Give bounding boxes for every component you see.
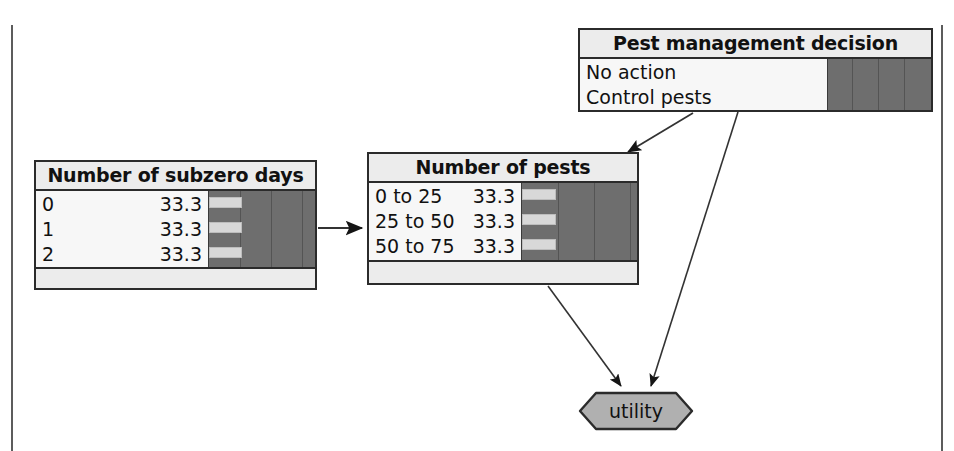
- state-probability: 33.3: [136, 243, 202, 265]
- node-number-of-pests[interactable]: Number of pests 0 to 25 33.3 25 to 50 33…: [367, 152, 639, 285]
- node-title: Number of subzero days: [36, 162, 315, 191]
- state-row[interactable]: 0 to 25 33.3: [369, 183, 637, 208]
- state-row[interactable]: 1 33.3: [36, 216, 315, 241]
- state-probability: 33.3: [449, 235, 515, 257]
- node-body: 0 to 25 33.3 25 to 50 33.3 50 to 75 33.3: [369, 183, 637, 260]
- node-title: Number of pests: [369, 154, 637, 183]
- utility-label: utility: [578, 391, 694, 431]
- edge-decision-to-pests: [628, 113, 693, 152]
- node-body: 0 33.3 1 33.3 2 33.3: [36, 191, 315, 267]
- state-row[interactable]: No action: [580, 59, 931, 84]
- state-label: Control pests: [580, 86, 712, 108]
- state-probability: 33.3: [449, 185, 515, 207]
- state-label: 1: [36, 218, 54, 240]
- edge-pests-to-utility: [548, 286, 621, 386]
- node-utility[interactable]: utility: [578, 391, 694, 431]
- node-body: No action Control pests: [580, 59, 931, 112]
- influence-diagram-canvas: g y Pest management decision: [0, 0, 954, 451]
- state-label: No action: [580, 61, 676, 83]
- state-probability: 33.3: [136, 193, 202, 215]
- node-number-of-subzero-days[interactable]: Number of subzero days 0 33.3 1 33.3 2 3…: [34, 160, 317, 290]
- node-footer: [369, 260, 637, 283]
- state-row[interactable]: 0 33.3: [36, 191, 315, 216]
- state-row[interactable]: 25 to 50 33.3: [369, 208, 637, 233]
- state-label: 0 to 25: [369, 185, 442, 207]
- state-probability: 33.3: [136, 218, 202, 240]
- state-label: 25 to 50: [369, 210, 455, 232]
- state-row[interactable]: 2 33.3: [36, 241, 315, 266]
- node-pest-management-decision[interactable]: Pest management decision No action Contr…: [578, 28, 933, 112]
- state-row[interactable]: 50 to 75 33.3: [369, 233, 637, 258]
- state-label: 50 to 75: [369, 235, 455, 257]
- state-probability: 33.3: [449, 210, 515, 232]
- edge-decision-to-utility: [651, 112, 738, 386]
- state-label: 2: [36, 243, 54, 265]
- node-footer: [36, 267, 315, 288]
- state-row[interactable]: Control pests: [580, 84, 931, 109]
- state-label: 0: [36, 193, 54, 215]
- node-title: Pest management decision: [580, 30, 931, 59]
